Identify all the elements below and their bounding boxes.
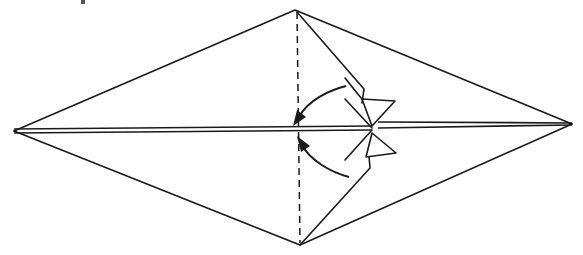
upper-flap (345, 78, 395, 126)
center-double-line (14, 122, 572, 133)
inner-edges (297, 12, 372, 245)
fold-arrow-upper-icon (293, 86, 346, 126)
origami-diagram (0, 0, 583, 255)
valley-fold-line (297, 12, 300, 243)
lower-flap (366, 133, 396, 157)
fold-arrow-lower-icon (297, 136, 349, 177)
